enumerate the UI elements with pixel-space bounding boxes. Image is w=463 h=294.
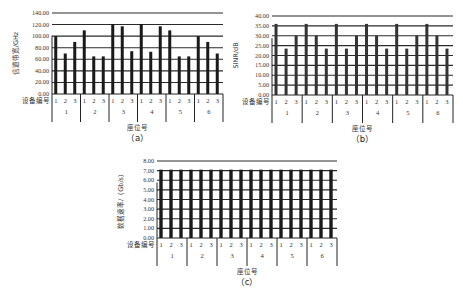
device-label: 3 [209,241,212,248]
y-tick-label: 30.00 [255,32,269,39]
y-tick-label: 35.00 [255,22,269,29]
device-label: 2 [169,241,172,248]
seat-label: 4 [376,109,380,116]
bar [197,36,200,94]
bar [385,49,388,95]
device-label: 2 [64,97,67,104]
seat-label: 3 [230,252,233,259]
seat-label: 3 [346,109,349,116]
y-tick-label: 80.00 [35,44,49,51]
device-label: 2 [435,98,438,105]
bar [189,170,192,238]
bar [239,170,242,238]
bar [315,36,318,95]
bar [229,170,232,238]
y-tick-label: 20.00 [35,78,49,85]
bar [355,36,358,95]
device-row-label: 设备编号 [22,96,50,105]
device-label: 1 [168,97,171,104]
device-label: 1 [83,97,86,104]
device-label: 1 [279,241,282,248]
seat-label: 2 [93,108,96,115]
device-label: 3 [269,241,272,248]
device-label: 1 [140,97,143,104]
device-label: 1 [335,98,338,105]
bar [121,26,124,94]
bar [425,24,428,95]
caption: （c） [236,277,259,287]
y-tick-label: 0.00 [143,234,154,241]
device-label: 3 [295,98,298,105]
seat-label: 6 [436,109,440,116]
bar [199,170,202,238]
bar [275,24,278,95]
chart-c: 0.001.002.003.004.005.006.007.008.001231… [116,157,337,287]
device-label: 1 [309,241,312,248]
device-label: 3 [216,97,219,104]
device-label: 3 [299,241,302,248]
bar [279,170,282,238]
device-label: 1 [189,241,192,248]
bar [168,30,171,94]
seat-label: 4 [260,252,264,259]
device-label: 2 [178,97,181,104]
y-tick-label: 140.00 [32,9,49,16]
caption: （b） [351,134,374,144]
y-tick-label: 7.00 [143,167,154,174]
bar [405,49,408,95]
x-axis-label: 座位号 [127,123,148,132]
device-label: 3 [325,98,328,105]
caption: （a） [126,133,149,143]
device-label: 3 [329,241,332,248]
device-label: 3 [415,98,418,105]
y-tick-label: 3.00 [143,205,154,212]
bar [130,51,133,94]
y-tick-label: 0.00 [38,90,49,97]
seat-label: 2 [316,109,319,116]
seat-label: 3 [122,108,125,115]
device-label: 1 [274,98,277,105]
seat-label: 1 [170,252,173,259]
chart-canvas: 0.0020.0040.0060.0080.00100.00120.00140.… [0,0,463,294]
seat-label: 4 [150,108,154,115]
bar [73,42,76,94]
bar [319,170,322,238]
bar [111,24,114,94]
device-label: 1 [249,241,252,248]
seat-label: 6 [207,108,211,115]
y-tick-label: 5.00 [143,186,154,193]
device-label: 2 [229,241,232,248]
bar [159,26,162,94]
y-axis-label: 数据速率/（Gb/s） [116,170,125,229]
device-label: 2 [199,241,202,248]
bar [335,24,338,95]
device-label: 2 [345,98,348,105]
device-label: 2 [289,241,292,248]
seat-label: 6 [320,252,324,259]
bar [169,170,172,238]
device-label: 2 [121,97,124,104]
y-tick-label: 60.00 [35,55,49,62]
seat-label: 2 [200,252,203,259]
device-label: 2 [319,241,322,248]
device-label: 1 [197,97,200,104]
seat-label: 5 [290,252,293,259]
device-label: 3 [179,241,182,248]
device-label: 2 [259,241,262,248]
bar [140,24,143,94]
bar [365,24,368,95]
device-label: 1 [365,98,368,105]
x-axis-label: 座位号 [237,267,258,276]
bar [219,170,222,238]
bar [329,170,332,238]
bar [295,36,298,95]
y-tick-label: 0.00 [258,91,269,98]
device-label: 3 [355,98,358,105]
y-axis-label: SINR/dB [232,42,240,68]
bar [395,24,398,95]
device-label: 3 [102,97,105,104]
device-label: 3 [73,97,76,104]
device-label: 3 [187,97,190,104]
device-label: 1 [395,98,398,105]
y-tick-label: 2.00 [143,215,154,222]
